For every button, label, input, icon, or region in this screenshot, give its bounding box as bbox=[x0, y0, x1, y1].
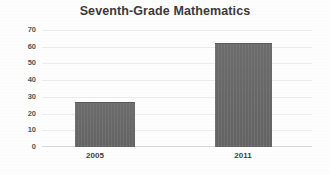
y-axis-tick-label: 0 bbox=[12, 143, 36, 151]
y-axis-tick-label: 60 bbox=[12, 43, 36, 51]
y-axis-tick-label: 30 bbox=[12, 93, 36, 101]
chart-title: Seventh-Grade Mathematics bbox=[0, 4, 330, 18]
x-axis-label-2005: 2005 bbox=[55, 152, 135, 160]
y-axis-tick-label: 50 bbox=[12, 59, 36, 67]
y-axis-tick-label: 40 bbox=[12, 76, 36, 84]
plot-area bbox=[42, 30, 312, 147]
bar-2005 bbox=[75, 102, 135, 147]
y-axis-tick-label: 10 bbox=[12, 126, 36, 134]
gridline-70 bbox=[42, 30, 312, 31]
y-axis-tick-label: 20 bbox=[12, 110, 36, 118]
bar-2011 bbox=[215, 43, 272, 147]
bar-chart-figure: Seventh-Grade Mathematics 70 60 50 40 30… bbox=[0, 0, 330, 174]
x-axis-label-2011: 2011 bbox=[203, 152, 283, 160]
y-axis-tick-label: 70 bbox=[12, 26, 36, 34]
